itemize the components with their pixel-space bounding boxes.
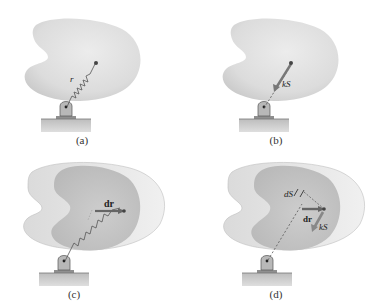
panel-c: dr <box>24 162 165 286</box>
ground-block <box>41 119 91 132</box>
ground-block <box>239 119 289 132</box>
panel-a: r <box>25 19 141 132</box>
caption-a: (a) <box>76 134 88 146</box>
spring-work-diagram: r kS dr dS <box>0 0 382 308</box>
support-pin <box>56 102 76 120</box>
caption-d: (d) <box>270 288 283 300</box>
caption-b: (b) <box>270 134 283 146</box>
label-r: r <box>70 74 74 84</box>
diagram-canvas: r kS dr dS <box>0 0 382 308</box>
label-kS: kS <box>319 222 328 232</box>
label-kS: kS <box>282 79 291 89</box>
ground-block <box>242 273 292 286</box>
attachment-point <box>322 207 326 211</box>
panel-b: kS <box>223 19 339 132</box>
attachment-point <box>94 61 98 65</box>
label-dr: dr <box>303 214 312 224</box>
panel-d: dS dr kS <box>224 162 365 286</box>
support-pin <box>257 256 277 274</box>
label-dr: dr <box>104 198 115 209</box>
attachment-point <box>289 61 293 65</box>
label-dS: dS <box>284 189 294 199</box>
rigid-body <box>223 19 339 101</box>
support-pin <box>54 256 74 274</box>
ground-block <box>39 273 89 286</box>
support-pin <box>254 102 274 120</box>
attachment-point <box>122 209 126 213</box>
caption-c: (c) <box>68 288 80 300</box>
rigid-body <box>25 19 141 101</box>
